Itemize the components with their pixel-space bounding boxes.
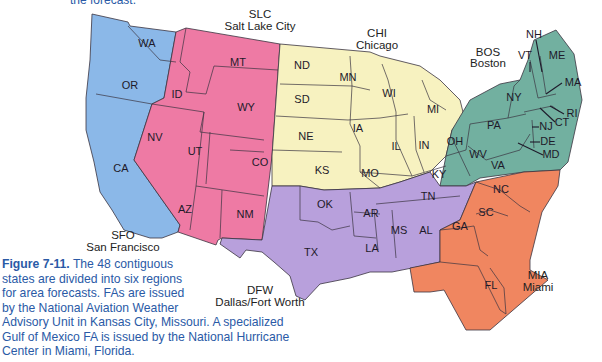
region-name-mia: Miami <box>523 281 554 293</box>
state-label-ia: IA <box>353 122 364 134</box>
state-label-ny: NY <box>506 91 522 103</box>
figure-label: Figure 7-11. <box>2 257 70 271</box>
state-label-ok: OK <box>317 198 334 210</box>
region-name-slc: Salt Lake City <box>225 20 296 32</box>
caption-text-part2: Advisory Unit in Kansas City, Missouri. … <box>2 315 289 358</box>
state-label-il: IL <box>391 140 400 152</box>
state-label-me: ME <box>549 49 566 61</box>
state-label-pa: PA <box>487 119 502 131</box>
state-label-mt: MT <box>230 56 246 68</box>
figure-caption-continued: Advisory Unit in Kansas City, Missouri. … <box>2 315 294 359</box>
state-label-wi: WI <box>382 87 395 99</box>
region-code-sfo: SFO <box>111 229 135 241</box>
state-label-nm: NM <box>236 208 253 220</box>
state-label-co: CO <box>252 156 269 168</box>
state-label-ms: MS <box>391 224 408 236</box>
region-code-chi: CHI <box>367 27 387 39</box>
region-code-mia: MIA <box>528 269 549 281</box>
state-label-ks: KS <box>315 164 330 176</box>
state-label-nd: ND <box>294 59 310 71</box>
state-label-tx: TX <box>304 246 319 258</box>
state-label-sd: SD <box>294 93 309 105</box>
region-name-chi: Chicago <box>356 39 398 51</box>
state-label-la: LA <box>365 242 379 254</box>
state-label-nc: NC <box>493 183 509 195</box>
region-name-sfo: San Francisco <box>86 241 160 253</box>
state-label-ut: UT <box>188 145 203 157</box>
state-label-wy: WY <box>237 101 255 113</box>
state-label-ne: NE <box>298 130 313 142</box>
state-label-de: DE <box>540 135 555 147</box>
region-name-bos: Boston <box>470 57 506 69</box>
state-label-id: ID <box>172 88 183 100</box>
state-label-wa: WA <box>138 37 156 49</box>
state-label-mo: MO <box>361 167 379 179</box>
state-label-ar: AR <box>363 207 378 219</box>
state-label-ma: MA <box>565 76 582 88</box>
region-code-dfw: DFW <box>247 284 273 296</box>
state-label-md: MD <box>542 148 559 160</box>
state-label-mi: MI <box>427 103 439 115</box>
region-name-dfw: Dallas/Fort Worth <box>215 296 304 308</box>
figure-caption: Figure 7-11. The 48 contiguous states ar… <box>2 257 187 315</box>
state-label-fl: FL <box>485 279 498 291</box>
state-label-mn: MN <box>339 71 356 83</box>
state-label-nv: NV <box>147 131 163 143</box>
state-label-sc: SC <box>478 206 493 218</box>
state-label-ri: RI <box>567 107 578 119</box>
region-code-slc: SLC <box>249 8 271 20</box>
state-label-al: AL <box>419 224 432 236</box>
state-label-nh: NH <box>526 28 542 40</box>
state-label-in: IN <box>419 139 430 151</box>
state-label-ca: CA <box>113 162 129 174</box>
state-label-ky: KY <box>432 168 447 180</box>
state-label-or: OR <box>122 79 139 91</box>
state-label-va: VA <box>491 159 506 171</box>
state-label-wv: WV <box>469 148 487 160</box>
state-label-ga: GA <box>452 220 469 232</box>
state-label-oh: OH <box>447 135 464 147</box>
state-label-nj: NJ <box>539 120 552 132</box>
state-label-az: AZ <box>178 203 192 215</box>
state-label-tn: TN <box>421 190 436 202</box>
state-label-vt: VT <box>518 49 532 61</box>
